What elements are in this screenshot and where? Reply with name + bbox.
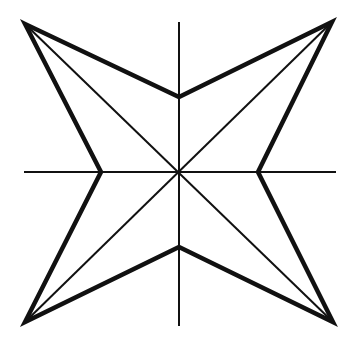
star-diagram (0, 0, 359, 345)
